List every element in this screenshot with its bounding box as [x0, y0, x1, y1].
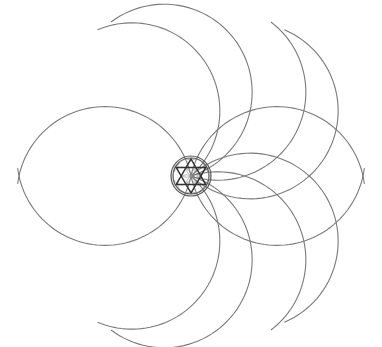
petal-arc	[191, 22, 306, 180]
petal-arc	[111, 4, 252, 176]
center-dot	[190, 175, 192, 177]
rosette-diagram	[0, 0, 382, 347]
petal-arc	[98, 23, 220, 176]
petal-arc	[191, 30, 338, 199]
petal-arc	[98, 176, 220, 329]
petal-arc	[18, 168, 191, 245]
petal-arc	[191, 172, 306, 330]
petal-arc	[191, 153, 338, 322]
petal-arc	[18, 107, 191, 184]
